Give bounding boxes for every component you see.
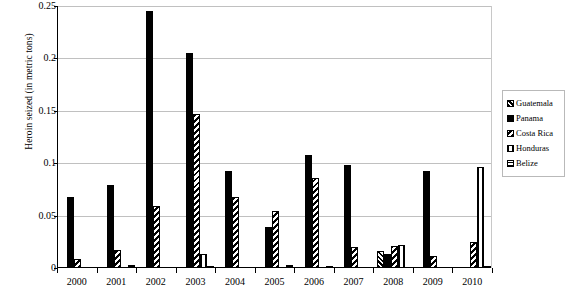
y-tick-label: 0.05 [0,211,56,221]
legend-swatch-icon [507,130,514,137]
legend-swatch-icon [507,160,514,167]
bar-panama-2001 [107,185,114,268]
legend-item-honduras[interactable]: Honduras [507,141,562,156]
x-tick-mark [136,268,137,273]
legend-item-belize[interactable]: Belize [507,156,562,171]
legend-label: Belize [516,159,538,168]
bar-panama-2004 [225,171,232,268]
bar-panama-2003 [186,53,193,268]
bar-panama-2006 [305,155,312,268]
x-tick-mark [413,268,414,273]
bar-costa-rica-2001 [114,250,121,268]
legend-label: Honduras [516,144,549,153]
bar-chart: Heroin seized (in metric tons) 00.050.10… [0,0,565,295]
bar-panama-2009 [423,171,430,268]
x-tick-mark [215,268,216,273]
bar-group [216,6,256,268]
legend-swatch-icon [507,100,514,107]
bar-honduras-2008 [398,245,405,268]
bar-group [374,6,414,268]
legend-label: Guatemala [516,99,553,108]
x-tick-label-2010: 2010 [449,276,495,288]
x-tick-mark [176,268,177,273]
bar-costa-rica-2008 [391,246,398,268]
bar-panama-2002 [146,11,153,268]
legend-label: Costa Rica [516,129,553,138]
chart-legend: GuatemalaPanamaCosta RicaHondurasBelize [502,90,565,177]
bar-group [295,6,335,268]
bar-group [256,6,296,268]
x-tick-mark [294,268,295,273]
x-tick-mark [334,268,335,273]
bar-group [137,6,177,268]
x-tick-mark [255,268,256,273]
bar-honduras-2010 [477,167,484,268]
y-tick-label: 0.25 [0,1,56,11]
bar-panama-2005 [265,227,272,268]
bar-costa-rica-2003 [193,114,200,268]
bar-costa-rica-2010 [470,242,477,268]
x-tick-mark [97,268,98,273]
x-tick-mark [373,268,374,273]
legend-label: Panama [516,114,543,123]
bar-group [177,6,217,268]
bar-honduras-2003 [200,254,207,268]
legend-swatch-icon [507,115,514,122]
y-axis-title: Heroin seized (in metric tons) [24,7,35,177]
legend-swatch-icon [507,145,514,152]
x-axis-line [58,267,491,268]
bar-group [58,6,98,268]
bar-group [335,6,375,268]
bar-panama-2008 [384,254,391,268]
bar-group [98,6,138,268]
plot-area [57,6,492,268]
bar-group [414,6,454,268]
y-tick-label: 0.2 [0,53,56,63]
bar-guatemala-2008 [377,251,384,268]
legend-item-costa-rica[interactable]: Costa Rica [507,126,562,141]
bar-costa-rica-2002 [153,206,160,268]
x-tick-mark [492,268,493,273]
bar-group [453,6,493,268]
x-tick-mark [452,268,453,273]
y-tick-label: 0.15 [0,106,56,116]
y-tick-label: 0 [0,263,56,273]
bar-panama-2000 [67,197,74,268]
bar-costa-rica-2004 [232,197,239,268]
y-tick-label: 0.1 [0,158,56,168]
x-tick-mark [57,268,58,273]
legend-item-guatemala[interactable]: Guatemala [507,96,562,111]
bar-costa-rica-2006 [312,178,319,268]
bar-costa-rica-2007 [351,247,358,268]
bar-costa-rica-2005 [272,211,279,268]
legend-item-panama[interactable]: Panama [507,111,562,126]
bar-panama-2007 [344,165,351,268]
